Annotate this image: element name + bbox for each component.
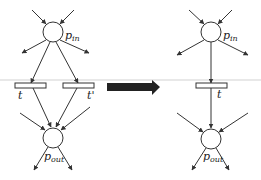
- arc-pin-t-prime: [56, 42, 78, 83]
- label-p-in-right: pin: [223, 29, 238, 43]
- transform-arrow: [107, 80, 160, 95]
- label-p-in-left: pin: [65, 29, 80, 43]
- arc-pout-in-left: [177, 113, 203, 132]
- label-t-prime-left: t': [87, 89, 94, 102]
- arc-in-right: [60, 10, 74, 24]
- transition-t: [196, 83, 227, 88]
- arc-in-left: [32, 10, 46, 24]
- place-p-out: [43, 128, 63, 148]
- arc-pin-t: [31, 42, 50, 83]
- arc-pout-in-left: [20, 113, 45, 130]
- petri-net-diagram: pin t t' pout pin t pout: [0, 0, 261, 180]
- arc-t-pout: [33, 88, 51, 127]
- transition-t: [15, 83, 46, 88]
- transition-t-prime: [63, 83, 94, 88]
- place-p-out: [201, 129, 221, 149]
- label-t-left: t: [18, 89, 23, 102]
- arc-in-right: [218, 10, 232, 24]
- place-p-in: [43, 22, 63, 42]
- label-p-out-right: pout: [203, 150, 224, 164]
- arc-in-left: [189, 10, 204, 24]
- arc-out-left: [177, 40, 204, 55]
- place-p-in: [201, 22, 221, 42]
- arc-t-prime-pout: [56, 88, 77, 127]
- left-net: [15, 10, 94, 170]
- arc-out-left: [22, 40, 46, 53]
- label-t-right: t: [217, 88, 222, 101]
- label-p-out-left: pout: [44, 150, 65, 164]
- arc-pout-in-right: [219, 113, 248, 132]
